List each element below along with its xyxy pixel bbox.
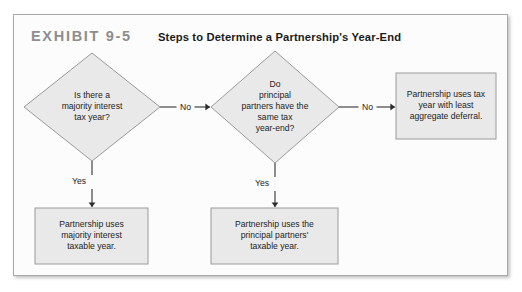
edge-label-yes: Yes	[255, 178, 269, 188]
flowchart-canvas: NoNoYesYes Is there amajority interestta…	[14, 15, 509, 277]
arrowhead-icon	[89, 202, 96, 207]
page-top-margin	[0, 0, 522, 13]
decision-node: Doprincipalpartners have thesame taxyear…	[211, 51, 339, 163]
flow-edge: Yes	[255, 163, 278, 207]
edge-label-yes: Yes	[72, 176, 86, 186]
flow-edge: Yes	[72, 161, 95, 207]
process-node: Partnership uses taxyear with leastaggre…	[396, 73, 496, 139]
process-node: Partnership uses theprincipal partners't…	[211, 208, 338, 264]
arrowhead-icon	[272, 202, 279, 207]
decision-node: Is there amajority interesttax year?	[24, 53, 160, 161]
b_left-label: Partnership usesmajority interesttaxable…	[59, 219, 124, 251]
arrowhead-icon	[205, 104, 210, 111]
edge-label-no: No	[362, 102, 373, 112]
exhibit-frame: EXHIBIT 9-5 Steps to Determine a Partner…	[13, 14, 508, 276]
flowchart-nodes: Is there amajority interesttax year?Dopr…	[24, 51, 496, 264]
flow-edge: No	[339, 102, 395, 112]
arrowhead-icon	[390, 104, 395, 111]
edge-label-no: No	[180, 102, 191, 112]
exhibit-page: EXHIBIT 9-5 Steps to Determine a Partner…	[0, 0, 522, 292]
flow-edge: No	[160, 102, 210, 112]
process-node: Partnership usesmajority interesttaxable…	[35, 208, 148, 264]
exhibit-inner-panel: EXHIBIT 9-5 Steps to Determine a Partner…	[14, 15, 507, 275]
